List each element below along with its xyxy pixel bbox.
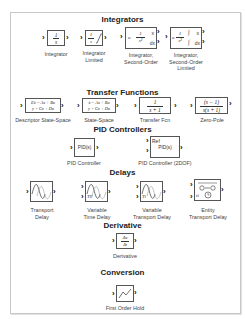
input-port-icon: › — [120, 33, 123, 41]
output-port-icon: › — [61, 102, 64, 110]
input-port-icon: › — [80, 34, 83, 42]
output-port-icon: › — [229, 100, 232, 108]
input-port-icon: › — [146, 147, 149, 155]
output-port-icon: › — [221, 186, 224, 194]
block-content: PID(s) — [75, 145, 94, 150]
block-content: PID(s) — [151, 145, 179, 150]
input-port-ti-icon: › — [136, 193, 139, 201]
block-label: Variable Time Delay — [77, 207, 117, 220]
section-title-transfer-functions: Transfer Functions — [0, 88, 245, 97]
input-port-ref-icon: › — [146, 137, 149, 145]
block-label: Integrator, Second-Order Limited — [166, 52, 206, 72]
block-label: Integrator, Second-Order — [121, 52, 161, 65]
output-port-icon: › — [104, 34, 107, 42]
block-label: PID Controller (2DOF) — [135, 160, 195, 167]
output-port-icon: › — [163, 188, 166, 196]
input-port-icon: › — [77, 102, 80, 110]
output-port-x-icon: › — [157, 28, 160, 36]
port-label-dx: dx — [195, 40, 200, 46]
input-port-icon: › — [136, 183, 139, 191]
block-label: PID Controller — [64, 160, 104, 167]
block-label: Integrator — [36, 51, 76, 58]
output-port-icon: › — [134, 237, 137, 245]
section-title-derivative: Derivative — [0, 221, 245, 230]
output-port-icon: › — [53, 188, 56, 196]
input-port-icon: › — [42, 34, 45, 42]
block-label: First Order Hold — [100, 305, 150, 312]
block-content: Eẋ = Ax + Bu y = Cx + Du — [26, 100, 60, 112]
port-label-x: x — [152, 30, 155, 36]
port-label-x: x — [197, 30, 200, 36]
block-label: Derivative — [105, 253, 145, 260]
block-content: 1 s — [88, 32, 94, 45]
output-port-dx-icon: › — [157, 38, 160, 46]
block-label: Descriptor State-Space — [13, 117, 73, 124]
output-port-icon: › — [134, 289, 137, 297]
output-port-x-icon: › — [202, 28, 205, 36]
port-label-u: u — [172, 35, 175, 40]
section-title-delays: Delays — [0, 168, 245, 177]
block-label: Integrator Limited — [74, 50, 114, 63]
block-label: State-Space — [79, 117, 119, 124]
input-port-icon: › — [20, 102, 23, 110]
input-port-icon: › — [190, 102, 193, 110]
block-content: 1 s² — [136, 31, 145, 44]
block-content: Δu Δt — [117, 235, 133, 248]
output-port-icon: › — [96, 144, 99, 152]
block-label: Variable Transport Delay — [127, 207, 177, 220]
first-order-hold-icon — [117, 286, 133, 301]
output-port-dx-icon: › — [202, 38, 205, 46]
input-port-icon: › — [26, 188, 29, 196]
block-content: (s − 1) s(s + 1) — [196, 99, 227, 114]
section-title-pid-controllers: PID Controllers — [0, 125, 245, 134]
input-port-icon: › — [190, 181, 193, 189]
block-content: 1 s² — [176, 31, 184, 44]
port-label-t0: T0 — [87, 194, 92, 199]
port-label-dx: dx — [150, 40, 155, 46]
output-port-icon: › — [174, 102, 177, 110]
input-port-icon: › — [70, 144, 73, 152]
limit-icon — [95, 33, 103, 44]
input-port-icon: › — [165, 33, 168, 41]
block-content: 1 s — [48, 32, 64, 45]
port-label-ti: ti — [196, 193, 199, 198]
section-title-integrators: Integrators — [0, 15, 245, 24]
input-port-icon: › — [134, 102, 137, 110]
block-label: Entity Transport Delay — [183, 207, 233, 220]
port-label-ti: Ti — [142, 194, 146, 199]
input-port-icon: › — [81, 183, 84, 191]
section-title-conversion: Conversion — [0, 268, 245, 277]
block-label: Zero-Pole — [192, 117, 232, 124]
input-port-ti-icon: › — [190, 193, 193, 201]
block-label: Transfer Fcn — [135, 117, 175, 124]
output-port-icon: › — [66, 34, 69, 42]
output-port-icon: › — [180, 144, 183, 152]
block-content: 1 s + 1 — [140, 99, 170, 114]
input-port-t0-icon: › — [81, 193, 84, 201]
block-content: ẋ = Ax + Bu y = Cx + Du — [83, 100, 115, 112]
output-port-icon: › — [108, 188, 111, 196]
port-label-ref: Ref — [152, 138, 160, 144]
input-port-icon: › — [112, 237, 115, 245]
block-label: Transport Delay — [22, 207, 62, 220]
delay-wave-icon — [31, 182, 52, 201]
output-port-icon: › — [116, 102, 119, 110]
port-label-u: u — [128, 35, 131, 40]
input-port-icon: › — [112, 290, 115, 298]
